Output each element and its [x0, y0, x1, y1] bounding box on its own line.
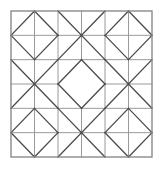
quilt-pattern-svg	[0, 0, 162, 178]
quilt-pattern-figure	[0, 0, 162, 178]
